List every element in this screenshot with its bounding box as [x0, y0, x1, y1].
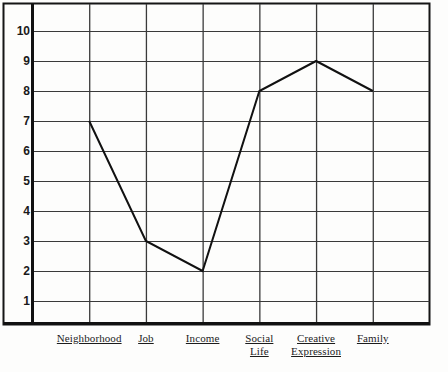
- x-label-line2-wrap: Expression: [268, 345, 364, 358]
- x-label-line2: Life: [250, 345, 269, 358]
- x-axis-category-labels: NeighborhoodJobIncomeSocialLifeCreativeE…: [0, 0, 448, 372]
- line-chart: 10987654321 NeighborhoodJobIncomeSocialL…: [0, 0, 448, 372]
- x-label-family: Family: [325, 332, 421, 345]
- x-label-line1: Family: [357, 332, 389, 345]
- x-label-line1: Job: [138, 332, 154, 345]
- x-label-line2: Expression: [291, 345, 341, 358]
